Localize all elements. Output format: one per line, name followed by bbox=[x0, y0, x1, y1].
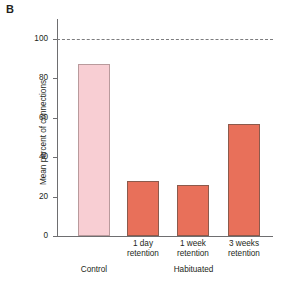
y-tick-20: 20 bbox=[53, 197, 58, 198]
bar-category-label-line2-3: retention bbox=[228, 249, 260, 259]
bar-category-label-line1-3: 3 weeks bbox=[229, 239, 259, 248]
bar-category-label-line2-1: retention bbox=[127, 249, 159, 259]
x-axis-line bbox=[57, 236, 273, 237]
y-tick-80: 80 bbox=[53, 78, 58, 79]
panel-letter-label: B bbox=[6, 3, 14, 15]
bar-0 bbox=[78, 64, 110, 236]
y-tick-60: 60 bbox=[53, 118, 58, 119]
bar-category-label-line2-2: retention bbox=[177, 249, 209, 259]
reference-line-100 bbox=[57, 39, 273, 40]
bar-category-label-line1-2: 1 week bbox=[180, 239, 206, 248]
bar-category-label-2: 1 weekretention bbox=[177, 239, 209, 259]
bar-1 bbox=[127, 181, 159, 236]
y-tick-40: 40 bbox=[53, 157, 58, 158]
y-tick-0: 0 bbox=[53, 236, 58, 237]
group-label-control: Control bbox=[78, 265, 110, 275]
bar-2 bbox=[177, 185, 209, 236]
plot-area: 020406080100 1 dayretention1 weekretenti… bbox=[57, 19, 273, 236]
y-tick-label-60: 60 bbox=[39, 113, 48, 122]
bar-3 bbox=[228, 124, 260, 236]
y-tick-label-80: 80 bbox=[39, 73, 48, 82]
group-label-habituated: Habituated bbox=[127, 265, 260, 275]
bar-category-label-1: 1 dayretention bbox=[127, 239, 159, 259]
bar-category-label-line1-1: 1 day bbox=[133, 239, 153, 248]
y-tick-label-100: 100 bbox=[34, 34, 48, 43]
y-tick-label-40: 40 bbox=[39, 152, 48, 161]
y-tick-label-20: 20 bbox=[39, 192, 48, 201]
y-axis-line bbox=[57, 19, 58, 237]
bar-category-label-3: 3 weeksretention bbox=[228, 239, 260, 259]
figure-panel-b: B Mean percent of connections 0204060801… bbox=[0, 0, 292, 293]
y-tick-label-0: 0 bbox=[43, 231, 48, 240]
